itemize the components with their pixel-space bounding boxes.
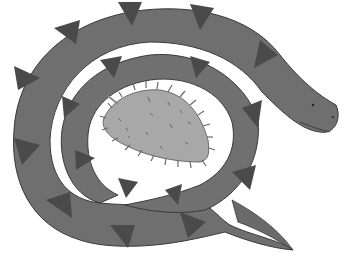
- snake-eye-icon: [312, 104, 314, 106]
- snake-illustration: [0, 0, 344, 262]
- snake-nostril-icon: [332, 116, 334, 118]
